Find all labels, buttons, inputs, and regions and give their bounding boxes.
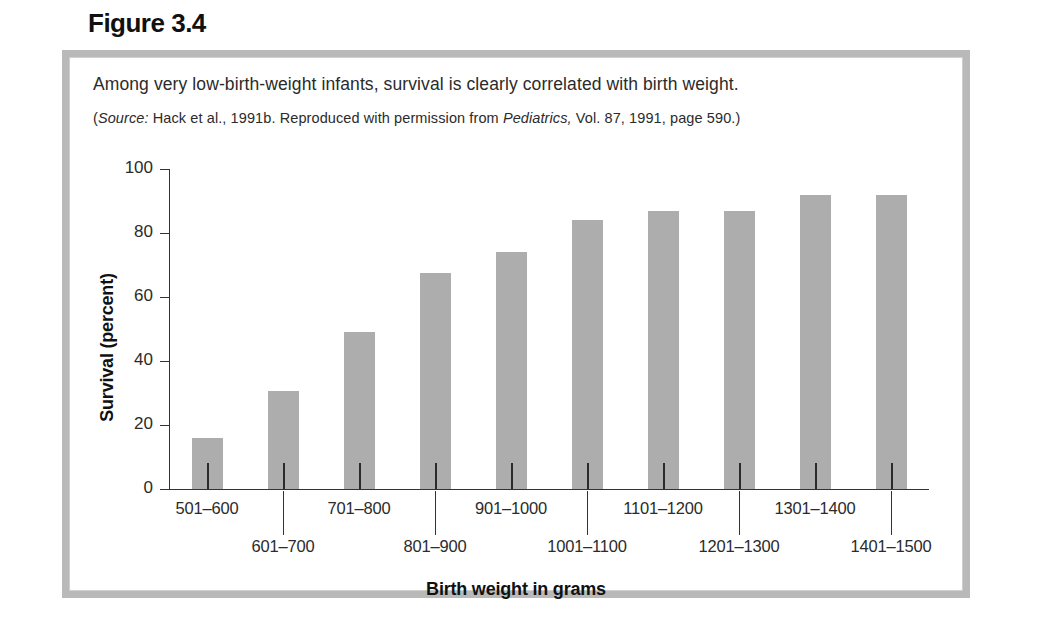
bar	[572, 220, 603, 489]
x-axis-label-leader-line	[435, 491, 436, 535]
figure-caption: Among very low-birth-weight infants, sur…	[93, 73, 943, 97]
x-axis-tick-label: 501–600	[147, 499, 267, 518]
x-axis-tick-mark	[587, 463, 589, 489]
x-axis-tick-label: 1001–1100	[527, 537, 647, 556]
x-axis-tick-mark	[511, 463, 513, 489]
source-text-a: Hack et al., 1991b. Reproduced with perm…	[149, 110, 503, 126]
bar	[420, 273, 451, 489]
y-axis-tick-mark	[160, 361, 169, 362]
x-axis-tick-label: 601–700	[223, 537, 343, 556]
x-axis-tick-label: 701–800	[299, 499, 419, 518]
y-axis-tick-mark	[160, 169, 169, 170]
x-axis-tick-label: 1201–1300	[679, 537, 799, 556]
x-axis-label-leader-line	[739, 491, 740, 535]
bar	[496, 252, 527, 489]
figure-source-line: (Source: Hack et al., 1991b. Reproduced …	[93, 109, 943, 129]
figure-label: Figure 3.4	[88, 8, 206, 39]
x-axis-tick-mark	[207, 463, 209, 489]
x-axis-label-leader-line	[587, 491, 588, 535]
x-axis-tick-mark	[435, 463, 437, 489]
y-axis-line	[169, 169, 170, 489]
source-text-b: Vol. 87, 1991, page 590.)	[572, 110, 741, 126]
x-axis-tick-label: 1301–1400	[755, 499, 875, 518]
x-axis-tick-label: 801–900	[375, 537, 495, 556]
bar	[800, 195, 831, 489]
x-axis-label-leader-line	[283, 491, 284, 535]
bar	[648, 211, 679, 489]
x-axis-title: Birth weight in grams	[69, 579, 963, 600]
source-journal-name: Pediatrics,	[503, 110, 572, 126]
y-axis-tick-label: 0	[111, 478, 153, 498]
source-label: Source:	[98, 110, 149, 126]
x-axis-tick-mark	[359, 463, 361, 489]
y-axis-title: Survival (percent)	[97, 218, 118, 478]
x-axis-tick-mark	[739, 463, 741, 489]
x-axis-tick-mark	[891, 463, 893, 489]
x-axis-label-leader-line	[891, 491, 892, 535]
x-axis-tick-mark	[283, 463, 285, 489]
x-axis-tick-label: 901–1000	[451, 499, 571, 518]
y-axis-tick-mark	[160, 489, 169, 490]
x-axis-tick-mark	[815, 463, 817, 489]
figure-panel: Among very low-birth-weight infants, sur…	[62, 50, 970, 598]
x-axis-tick-label: 1101–1200	[603, 499, 723, 518]
y-axis-tick-mark	[160, 425, 169, 426]
y-axis-tick-label: 60	[111, 286, 153, 306]
y-axis-tick-label: 40	[111, 350, 153, 370]
y-axis-tick-label: 20	[111, 414, 153, 434]
x-axis-line	[169, 489, 929, 490]
x-axis-tick-label: 1401–1500	[831, 537, 951, 556]
bar	[724, 211, 755, 489]
y-axis-tick-label: 80	[111, 222, 153, 242]
y-axis-tick-mark	[160, 297, 169, 298]
bar	[876, 195, 907, 489]
y-axis-tick-label: 100	[111, 158, 153, 178]
x-axis-tick-mark	[663, 463, 665, 489]
y-axis-tick-mark	[160, 233, 169, 234]
bar-chart: Survival (percent) 020406080100 501–6006…	[69, 151, 963, 599]
